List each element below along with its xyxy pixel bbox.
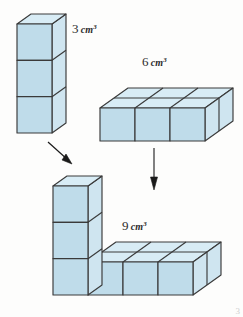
volume-label-6: 6cm3 — [142, 52, 167, 70]
composite-column-front-face-middle — [53, 222, 88, 258]
solids-illustration — [0, 0, 243, 317]
slab-front-face-2 — [135, 108, 170, 141]
column-front-face-middle — [17, 60, 52, 96]
composite-column-front-face-top — [53, 186, 88, 222]
arrow-slab-to-composite-head — [151, 177, 158, 190]
composite-l-solid-9cm3 — [53, 176, 221, 295]
column-front-face-top — [17, 24, 52, 60]
volume-label-3: 3cm3 — [72, 19, 97, 37]
volume-figure: 3cm3 6cm3 9cm3 3 — [0, 0, 243, 317]
volume-label-9: 9cm3 — [122, 216, 147, 234]
volume-label-3-unit: cm3 — [81, 24, 97, 35]
composite-column-right-face — [88, 176, 102, 295]
page-corner-mark: 3 — [236, 306, 241, 316]
volume-label-9-unit: cm3 — [131, 221, 147, 232]
composite-slab-front-face-2 — [123, 262, 158, 295]
composite-slab-front-face-3 — [158, 262, 193, 295]
column-front-face-bottom — [17, 97, 52, 133]
slab-solid-6cm3 — [100, 88, 233, 141]
volume-label-6-number: 6 — [142, 54, 149, 69]
slab-front-face-1 — [100, 108, 135, 141]
column-solid-3cm3 — [17, 14, 66, 133]
volume-label-6-unit: cm3 — [151, 57, 167, 68]
slab-front-face-3 — [170, 108, 205, 141]
composite-column-front-face-bottom — [53, 259, 88, 295]
volume-label-3-number: 3 — [72, 21, 79, 36]
volume-label-9-number: 9 — [122, 218, 129, 233]
column-right-face — [52, 14, 66, 133]
